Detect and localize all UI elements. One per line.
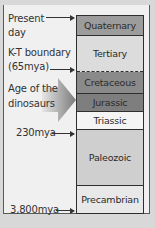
layer-jurassic: Jurassic <box>77 94 143 112</box>
layer-tertiary: Tertiary <box>77 36 143 72</box>
layer-precambrian: Precambrian <box>77 186 143 213</box>
arrow-kt-icon <box>50 69 74 70</box>
label-age-of-the: Age of the <box>8 82 58 96</box>
layer-paleozoic: Paleozoic <box>77 130 143 186</box>
arrow-present-icon <box>46 17 74 18</box>
arrow-230mya-icon <box>52 133 74 134</box>
layer-triassic: Triassic <box>77 112 143 130</box>
label-kt-boundary: K-T boundary <box>8 46 71 60</box>
label-3800mya: 3,800mya <box>10 203 59 217</box>
layer-quaternary: Quaternary <box>77 16 143 36</box>
label-dinosaurs: dinosaurs <box>8 97 55 111</box>
geologic-column: Quaternary Tertiary Cretaceous Jurassic … <box>76 15 144 214</box>
label-230mya: 230mya <box>16 126 56 140</box>
label-day: day <box>8 26 26 40</box>
label-65mya: (65mya) <box>8 60 49 74</box>
layer-cretaceous: Cretaceous <box>77 72 143 94</box>
cropped-title-area <box>0 0 155 5</box>
label-present: Present <box>8 12 44 26</box>
arrow-3800mya-icon <box>56 210 74 211</box>
